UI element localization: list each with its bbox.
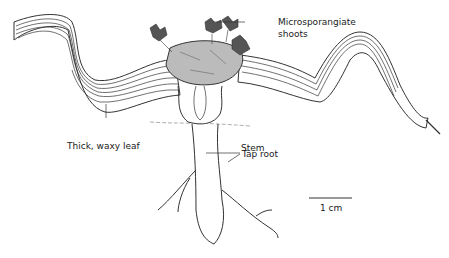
- label-microsporangiate: Microsporangiate: [278, 17, 356, 27]
- crown: [166, 41, 243, 85]
- diagram-figure: Microsporangiate shoots Stem Thick, waxy…: [0, 0, 449, 258]
- label-tap-root: Tap root: [242, 149, 278, 159]
- plant-drawing: [0, 0, 449, 258]
- right-leaf: [238, 32, 440, 134]
- tap-root: [158, 124, 278, 244]
- label-leaf: Thick, waxy leaf: [67, 141, 140, 151]
- label-scale: 1 cm: [320, 203, 342, 213]
- label-shoots: shoots: [278, 29, 308, 39]
- stem: [178, 86, 222, 124]
